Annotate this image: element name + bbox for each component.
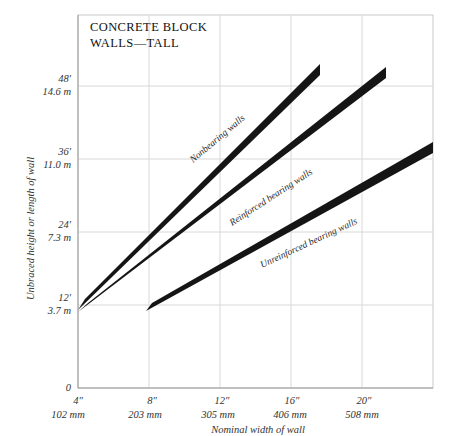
y-tick-48ft-primary: 48′ [58, 73, 72, 84]
x-tick-20in-primary: 20″ [357, 395, 373, 406]
x-tick-20in-secondary: 508 mm [345, 409, 379, 420]
x-tick-16in-primary: 16″ [285, 395, 301, 406]
chart-title-line2: WALLS—TALL [90, 36, 179, 50]
x-tick-4in-primary: 4″ [73, 395, 83, 406]
y-tick-0-primary: 0 [66, 382, 72, 393]
y-tick-24ft-secondary: 7.3 m [48, 232, 72, 243]
x-tick-8in-primary: 8″ [147, 395, 157, 406]
y-axis-title: Unbraced height or length of wall [25, 157, 36, 300]
y-tick-36ft-secondary: 11.0 m [43, 159, 71, 170]
chart-title-line1: CONCRETE BLOCK [90, 20, 207, 34]
y-axis-tick-labels: 48′ 14.6 m 36′ 11.0 m 24′ 7.3 m 12′ 3.7 … [42, 73, 71, 393]
x-tick-12in-primary: 12″ [215, 395, 231, 406]
concrete-block-walls-chart: CONCRETE BLOCK WALLS—TALL Nonbearing wal… [0, 0, 452, 436]
y-tick-48ft-secondary: 14.6 m [42, 86, 71, 97]
y-tick-36ft-primary: 36′ [57, 146, 72, 157]
x-axis-title: Nominal width of wall [210, 424, 305, 435]
x-tick-16in-secondary: 406 mm [273, 409, 307, 420]
x-tick-8in-secondary: 203 mm [128, 409, 162, 420]
y-tick-12ft-primary: 12′ [58, 292, 72, 303]
x-tick-12in-secondary: 305 mm [200, 409, 235, 420]
chart-svg: CONCRETE BLOCK WALLS—TALL Nonbearing wal… [0, 0, 452, 436]
y-tick-12ft-secondary: 3.7 m [47, 305, 72, 316]
x-tick-4in-secondary: 102 mm [51, 409, 85, 420]
y-tick-24ft-primary: 24′ [58, 219, 72, 230]
x-axis-tick-labels: 4″ 102 mm 8″ 203 mm 12″ 305 mm 16″ 406 m… [51, 395, 379, 420]
